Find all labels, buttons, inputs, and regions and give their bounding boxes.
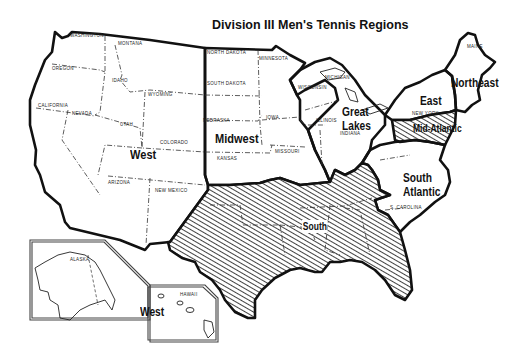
- state-label-utah: UTAH: [120, 122, 133, 127]
- state-label-hawaii: HAWAII: [180, 292, 197, 297]
- state-label-arizona: ARIZONA: [108, 180, 130, 185]
- us-region-map: [0, 0, 518, 363]
- state-label-michigan: MICHIGAN: [325, 75, 350, 80]
- state-label-wisconsin: WISCONSIN: [298, 85, 327, 90]
- region-label-great-lakes-1: Great: [342, 106, 369, 119]
- region-label-mid-atlantic: Mid-Atlantic: [413, 122, 462, 135]
- state-label-montana: MONTANA: [118, 41, 142, 46]
- state-label-nebraska: NEBRASKA: [203, 118, 230, 123]
- state-label-illinois: ILLINOIS: [316, 118, 337, 123]
- state-label-missouri: MISSOURI: [275, 149, 300, 154]
- region-label-east: East: [420, 95, 442, 108]
- state-label-maine: MAINE: [467, 44, 483, 49]
- state-label-new-york: NEW YORK: [412, 111, 439, 116]
- state-label-iowa: IOWA: [266, 115, 279, 120]
- state-label-oregon: OREGON: [52, 66, 74, 71]
- map-title: Division III Men's Tennis Regions: [212, 18, 409, 32]
- state-label-washington: WASHINGTON: [70, 33, 104, 38]
- inset-label-west: West: [140, 306, 164, 319]
- state-label-south-dakota: SOUTH DAKOTA: [207, 81, 246, 86]
- state-label-idaho: IDAHO: [112, 78, 128, 83]
- state-label-california: CALIFORNIA: [38, 103, 68, 108]
- state-label-alaska: ALASKA: [70, 257, 89, 262]
- region-label-west: West: [130, 148, 156, 161]
- state-label-kansas: KANSAS: [217, 156, 237, 161]
- state-label-north-dakota: NORTH DAKOTA: [207, 50, 246, 55]
- region-label-south-atlantic-2: Atlantic: [403, 186, 440, 199]
- state-label-colorado: COLORADO: [160, 140, 188, 145]
- state-label-indiana: INDIANA: [340, 131, 360, 136]
- region-label-south: South: [302, 220, 328, 233]
- region-label-northeast: Northeast: [451, 77, 499, 90]
- state-label-wyoming: WYOMING: [148, 92, 173, 97]
- region-south: [168, 163, 412, 318]
- region-label-south-atlantic-1: South: [403, 172, 432, 185]
- region-label-midwest: Midwest: [215, 132, 259, 145]
- state-label-new-mexico: NEW MEXICO: [155, 188, 188, 193]
- state-label-nevada: NEVADA: [72, 111, 92, 116]
- state-label-minnesota: MINNESOTA: [259, 56, 288, 61]
- state-label-s-carolina: S. CAROLINA: [390, 205, 422, 210]
